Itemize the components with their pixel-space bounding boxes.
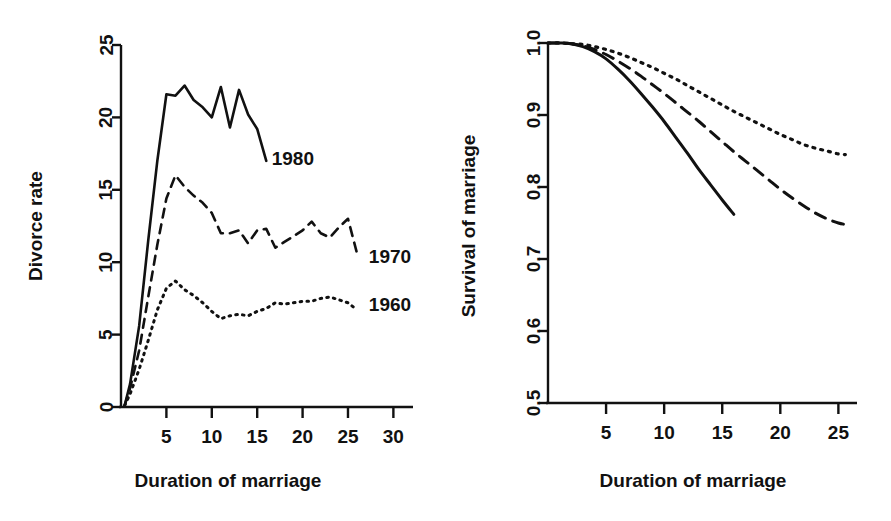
y-tick-label: 0.8 <box>523 174 544 200</box>
series-label-1960: 1960 <box>369 294 411 315</box>
x-tick-label: 5 <box>161 426 172 447</box>
series-line-1970 <box>548 43 845 224</box>
x-tick-label: 15 <box>712 422 734 443</box>
series-line-1960 <box>548 43 845 155</box>
x-tick-label: 5 <box>601 422 612 443</box>
y-tick-label: 0.6 <box>523 318 544 344</box>
x-tick-label: 25 <box>828 422 850 443</box>
x-tick-label: 20 <box>292 426 313 447</box>
y-axis-title: Survival of marriage <box>458 135 479 318</box>
figure-root: 051015202551015202530 198019701960 Durat… <box>0 0 891 521</box>
survival-of-marriage-panel: 0.50.60.70.80.91.0510152025 Duration of … <box>445 0 891 521</box>
y-tick-label: 1.0 <box>523 30 544 56</box>
y-tick-label: 0 <box>96 402 117 413</box>
series-line-1980 <box>548 43 734 214</box>
divorce-rate-curves <box>125 86 357 406</box>
y-tick-label: 10 <box>96 252 117 273</box>
series-label-1980: 1980 <box>272 148 314 169</box>
y-tick-label: 0.7 <box>523 246 544 272</box>
y-tick-label: 20 <box>96 107 117 128</box>
x-axis-title: Duration of marriage <box>135 470 322 491</box>
survival-of-marriage-svg: 0.50.60.70.80.91.0510152025 Duration of … <box>445 0 891 521</box>
x-tick-label: 10 <box>654 422 675 443</box>
y-tick-label: 5 <box>96 329 117 340</box>
series-line-1980 <box>125 86 267 406</box>
divorce-rate-svg: 051015202551015202530 198019701960 Durat… <box>0 0 445 521</box>
divorce-rate-series-labels: 198019701960 <box>272 148 411 315</box>
x-tick-label: 25 <box>337 426 359 447</box>
y-tick-label: 15 <box>96 179 117 201</box>
y-axis-title: Divorce rate <box>25 171 46 281</box>
divorce-rate-axes: 051015202551015202530 <box>96 34 414 447</box>
y-tick-label: 25 <box>96 34 117 56</box>
x-tick-label: 20 <box>770 422 791 443</box>
x-tick-label: 15 <box>247 426 269 447</box>
x-tick-label: 10 <box>201 426 222 447</box>
series-line-1970 <box>125 175 357 405</box>
x-axis-title: Duration of marriage <box>600 470 787 491</box>
y-tick-label: 0.5 <box>523 389 544 416</box>
series-label-1970: 1970 <box>369 246 411 267</box>
survival-curves <box>548 43 845 224</box>
survival-axes: 0.50.60.70.80.91.0510152025 <box>523 30 858 443</box>
y-tick-label: 0.9 <box>523 102 544 128</box>
divorce-rate-panel: 051015202551015202530 198019701960 Durat… <box>0 0 445 521</box>
series-line-1960 <box>125 281 357 406</box>
x-tick-label: 30 <box>383 426 404 447</box>
